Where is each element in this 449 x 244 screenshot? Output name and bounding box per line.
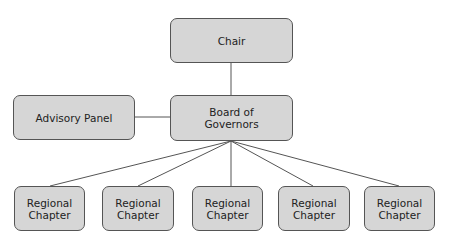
node-label: Chair xyxy=(218,35,246,47)
node-regional-chapter-1: Regional Chapter xyxy=(14,186,85,231)
node-label: Advisory Panel xyxy=(36,112,113,124)
node-regional-chapter-4: Regional Chapter xyxy=(278,186,350,231)
node-label: Board of Governors xyxy=(204,106,258,130)
node-label: Regional Chapter xyxy=(27,197,72,221)
node-regional-chapter-3: Regional Chapter xyxy=(192,186,263,231)
node-label: Regional Chapter xyxy=(205,197,250,221)
node-label: Regional Chapter xyxy=(377,197,422,221)
node-advisory-panel: Advisory Panel xyxy=(13,95,135,140)
node-regional-chapter-2: Regional Chapter xyxy=(102,186,174,231)
edge-board-rc4 xyxy=(231,141,313,186)
node-label: Regional Chapter xyxy=(115,197,160,221)
node-label: Regional Chapter xyxy=(291,197,336,221)
edge-board-rc5 xyxy=(231,141,399,186)
node-regional-chapter-5: Regional Chapter xyxy=(364,186,435,231)
edge-board-rc1 xyxy=(50,141,231,186)
edge-board-rc2 xyxy=(138,141,231,186)
node-board-of-governors: Board of Governors xyxy=(170,95,293,141)
node-chair: Chair xyxy=(170,18,293,63)
